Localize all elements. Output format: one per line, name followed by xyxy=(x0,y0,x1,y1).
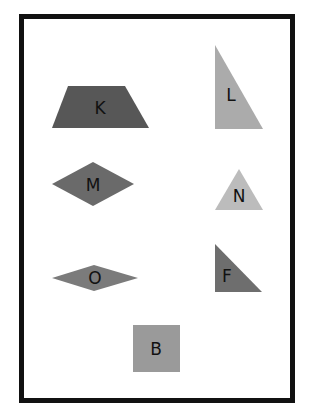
shape-m-rhombus: M xyxy=(52,162,134,206)
shapes-canvas: K L M N O F B xyxy=(0,0,310,412)
shape-b-label: B xyxy=(150,339,162,359)
shape-f-right-triangle: F xyxy=(215,244,262,292)
shape-l-right-triangle: L xyxy=(215,45,263,129)
shape-n-label: N xyxy=(233,186,246,206)
shape-n-triangle: N xyxy=(215,169,263,210)
shape-m-label: M xyxy=(86,175,101,195)
shape-k-label: K xyxy=(94,98,106,118)
shape-k-trapezoid: K xyxy=(52,86,149,128)
shape-l-label: L xyxy=(226,85,236,105)
shape-b-square: B xyxy=(133,325,180,372)
shape-o-label: O xyxy=(88,268,101,288)
shape-f-label: F xyxy=(222,266,232,286)
shape-o-flat-rhombus: O xyxy=(52,265,138,291)
